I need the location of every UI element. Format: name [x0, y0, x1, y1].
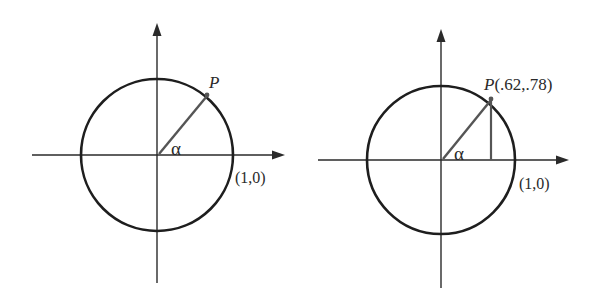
point-p-label: P(.62,.78): [483, 75, 552, 94]
radius-line: [159, 96, 207, 154]
figure-left: P α (1,0): [32, 23, 285, 283]
point-p-marker: [205, 93, 210, 98]
x-axis-arrow-icon: [556, 156, 569, 165]
point-p-name: P: [483, 75, 494, 94]
x-axis-arrow-icon: [272, 151, 285, 160]
y-axis-arrow-icon: [437, 29, 446, 42]
y-axis-arrow-icon: [153, 23, 162, 36]
unit-point-label: (1,0): [235, 169, 266, 187]
unit-point-label: (1,0): [519, 175, 550, 193]
point-p-coords: (.62,.78): [494, 75, 552, 94]
point-p-label: P: [208, 73, 219, 92]
point-p-marker: [489, 97, 494, 102]
radius-line: [443, 100, 491, 159]
angle-alpha-label: α: [171, 138, 181, 159]
figure-right: P(.62,.78) α (1,0): [318, 29, 569, 288]
unit-circle-figures: P α (1,0) P(.62,.78) α (1,0): [0, 0, 591, 298]
angle-alpha-label: α: [454, 143, 464, 164]
